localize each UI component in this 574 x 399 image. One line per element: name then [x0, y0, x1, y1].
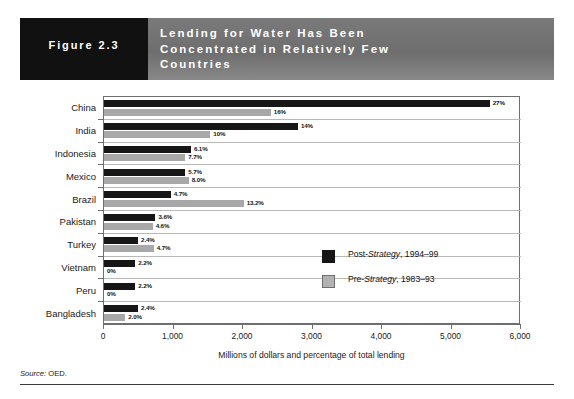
chart-row: Pakistan3.6%4.6%	[104, 211, 521, 234]
x-axis-tick-label: 4,000	[371, 331, 392, 341]
x-axis-tick	[312, 324, 313, 329]
source-value: OED.	[48, 369, 67, 378]
category-label-brazil: Brazil	[1, 194, 96, 205]
legend-label-pre: Pre-Strategy, 1983–93	[348, 274, 435, 284]
chart-row: India14%10%	[104, 120, 521, 143]
bar-value-post-pakistan: 3.6%	[158, 213, 172, 220]
bar-value-post-mexico: 5.7%	[188, 168, 202, 175]
legend-post-em: Strategy	[368, 249, 400, 259]
chart-row: Bangladesh2.4%2.0%	[104, 302, 521, 325]
bar-post-bangladesh	[104, 305, 138, 312]
bar-value-post-indonesia: 6.1%	[194, 145, 208, 152]
bar-post-china	[104, 100, 490, 107]
figure-container: Figure 2.3 Lending for Water Has Been Co…	[0, 0, 574, 399]
bar-pre-turkey	[104, 245, 154, 252]
bar-value-pre-bangladesh: 2.0%	[128, 313, 142, 320]
x-axis-tick	[520, 324, 521, 329]
bar-value-pre-peru: 0%	[107, 290, 116, 297]
bar-value-post-turkey: 2.4%	[141, 236, 155, 243]
figure-title-line-2: Concentrated in Relatively Few	[160, 42, 550, 58]
x-axis-tick	[173, 324, 174, 329]
legend-swatch-pre-icon	[322, 275, 335, 288]
x-axis-tick	[103, 324, 104, 329]
legend-swatch-post-icon	[322, 250, 335, 263]
category-label-china: China	[1, 102, 96, 113]
bar-value-pre-india: 10%	[213, 130, 225, 137]
bar-value-pre-vietnam: 0%	[107, 267, 116, 274]
category-label-india: India	[1, 125, 96, 136]
bar-value-post-china: 27%	[493, 99, 505, 106]
x-axis-tick-label: 5,000	[440, 331, 461, 341]
x-axis-title: Millions of dollars and percentage of to…	[103, 350, 520, 360]
bar-value-pre-pakistan: 4.6%	[156, 222, 170, 229]
bar-pre-pakistan	[104, 223, 153, 230]
bar-value-pre-indonesia: 7.7%	[188, 153, 202, 160]
x-axis-tick	[381, 324, 382, 329]
bar-pre-brazil	[104, 200, 244, 207]
x-axis-tick-label: 2,000	[232, 331, 253, 341]
bar-post-brazil	[104, 191, 171, 198]
bar-post-pakistan	[104, 214, 155, 221]
legend-pre-em: Strategy	[364, 274, 396, 284]
x-axis-tick-label: 1,000	[162, 331, 183, 341]
bar-value-post-peru: 2.2%	[138, 282, 152, 289]
bar-value-post-brazil: 4.7%	[174, 190, 188, 197]
bottom-rule-divider	[20, 384, 554, 385]
figure-header-band: Figure 2.3 Lending for Water Has Been Co…	[20, 18, 554, 80]
figure-title-line-3: Countries	[160, 57, 550, 73]
x-axis-tick-label: 6,000	[510, 331, 531, 341]
x-axis-tick-label: 3,000	[301, 331, 322, 341]
source-note: Source: OED.	[20, 369, 67, 378]
source-label: Source:	[20, 369, 46, 378]
x-axis-tick	[451, 324, 452, 329]
legend-item-pre: Pre-Strategy, 1983–93	[322, 273, 512, 298]
category-label-bangladesh: Bangladesh	[1, 308, 96, 319]
bar-value-pre-mexico: 8.0%	[192, 176, 206, 183]
legend-pre-prefix: Pre-	[348, 274, 364, 284]
figure-number-label: Figure 2.3	[20, 39, 148, 51]
category-label-mexico: Mexico	[1, 171, 96, 182]
legend-pre-suffix: , 1983–93	[396, 274, 434, 284]
chart-row: Brazil4.7%13.2%	[104, 188, 521, 211]
category-label-indonesia: Indonesia	[1, 148, 96, 159]
bar-pre-mexico	[104, 177, 189, 184]
figure-title: Lending for Water Has Been Concentrated …	[160, 26, 550, 73]
bar-value-pre-china: 16%	[274, 108, 286, 115]
chart-row: China27%16%	[104, 97, 521, 120]
bar-post-turkey	[104, 237, 138, 244]
x-axis-tick-label: 0	[101, 331, 106, 341]
chart-row: Indonesia6.1%7.7%	[104, 143, 521, 166]
bar-post-india	[104, 123, 298, 130]
bar-value-post-bangladesh: 2.4%	[141, 304, 155, 311]
bar-pre-bangladesh	[104, 314, 125, 321]
bar-value-post-india: 14%	[301, 122, 313, 129]
category-label-peru: Peru	[1, 285, 96, 296]
chart-legend: Post-Strategy, 1994–99 Pre-Strategy, 198…	[322, 248, 512, 298]
category-label-vietnam: Vietnam	[1, 262, 96, 273]
chart-row: Mexico5.7%8.0%	[104, 165, 521, 188]
bar-post-peru	[104, 283, 135, 290]
figure-number-box: Figure 2.3	[20, 18, 148, 80]
bar-pre-indonesia	[104, 154, 185, 161]
bar-pre-china	[104, 109, 271, 116]
bar-pre-india	[104, 131, 210, 138]
legend-post-prefix: Post-	[348, 249, 368, 259]
bar-value-pre-turkey: 4.7%	[157, 244, 171, 251]
x-axis-tick	[242, 324, 243, 329]
bar-post-mexico	[104, 169, 185, 176]
bar-value-post-vietnam: 2.2%	[138, 259, 152, 266]
figure-title-line-1: Lending for Water Has Been	[160, 26, 550, 42]
category-label-turkey: Turkey	[1, 239, 96, 250]
bar-post-vietnam	[104, 260, 135, 267]
category-label-pakistan: Pakistan	[1, 216, 96, 227]
bar-value-pre-brazil: 13.2%	[247, 199, 264, 206]
legend-label-post: Post-Strategy, 1994–99	[348, 249, 438, 259]
legend-post-suffix: , 1994–99	[400, 249, 438, 259]
legend-item-post: Post-Strategy, 1994–99	[322, 248, 512, 273]
bar-post-indonesia	[104, 146, 191, 153]
